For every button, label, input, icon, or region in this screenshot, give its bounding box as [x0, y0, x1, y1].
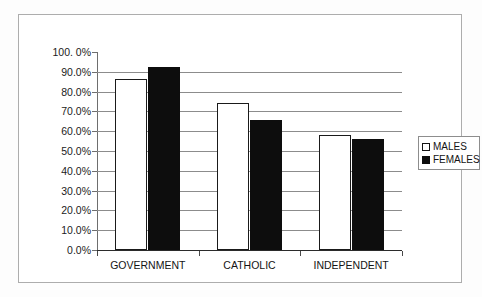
bar-government-males	[115, 79, 147, 250]
chart-legend: MALES FEMALES	[418, 136, 480, 170]
y-axis-tick-label: 20.0%	[35, 205, 91, 215]
y-axis-tick-label: 0.0%	[35, 245, 91, 255]
y-axis-tick	[92, 171, 97, 172]
y-axis-tick-label: 70.0%	[35, 106, 91, 116]
x-axis-tick	[199, 251, 200, 256]
legend-item-females: FEMALES	[422, 153, 477, 166]
legend-label-females: FEMALES	[433, 154, 480, 165]
y-axis-tick	[92, 210, 97, 211]
legend-label-males: MALES	[433, 141, 467, 152]
filled-square-swatch-icon	[422, 156, 430, 164]
x-axis-label-independent: INDEPENDENT	[314, 259, 389, 271]
bar-government-females	[148, 67, 180, 250]
y-axis-tick-label: 100. 0%	[35, 47, 91, 57]
bar-independent-males	[319, 135, 351, 250]
y-axis-tick-label: 40.0%	[35, 166, 91, 176]
y-axis-tick-label: 60.0%	[35, 126, 91, 136]
legend-item-males: MALES	[422, 140, 477, 153]
y-axis-tick	[92, 191, 97, 192]
y-axis-labels: 0.0%10.0%20.0%30.0%40.0%50.0%60.0%70.0%8…	[31, 15, 91, 284]
y-axis-tick-label: 10.0%	[35, 225, 91, 235]
bar-catholic-females	[250, 120, 282, 250]
chart-frame: 0.0%10.0%20.0%30.0%40.0%50.0%60.0%70.0%8…	[18, 14, 462, 283]
y-axis-tick	[92, 151, 97, 152]
bar-independent-females	[352, 139, 384, 250]
gridline	[97, 72, 402, 73]
y-axis-tick	[92, 111, 97, 112]
y-axis-tick	[92, 131, 97, 132]
x-axis-label-government: GOVERNMENT	[110, 259, 185, 271]
x-axis-label-catholic: CATHOLIC	[223, 259, 275, 271]
y-axis-tick	[92, 52, 97, 53]
x-axis-tick	[300, 251, 301, 256]
y-axis-tick	[92, 230, 97, 231]
y-axis-tick	[92, 92, 97, 93]
y-axis-tick-label: 50.0%	[35, 146, 91, 156]
open-square-swatch-icon	[422, 143, 430, 151]
plot-area	[97, 52, 402, 250]
y-axis-tick-label: 80.0%	[35, 87, 91, 97]
y-axis-tick-label: 90.0%	[35, 67, 91, 77]
x-axis-tick	[97, 251, 98, 256]
scanned-page-background: 0.0%10.0%20.0%30.0%40.0%50.0%60.0%70.0%8…	[0, 0, 482, 297]
y-axis-tick-label: 30.0%	[35, 186, 91, 196]
bar-catholic-males	[217, 103, 249, 251]
category-axis-line	[97, 250, 402, 251]
x-axis-tick	[402, 251, 403, 256]
y-axis-tick	[92, 72, 97, 73]
